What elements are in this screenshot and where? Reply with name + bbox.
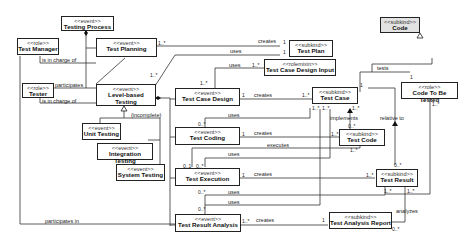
class-name: Testing Process (62, 24, 113, 31)
class-test-case-design-input[interactable]: <<rolemixin>> Test Case Design Input (264, 59, 336, 76)
multiplicity: 1..* (312, 105, 320, 111)
class-name: Code To Be Tested (402, 90, 457, 104)
multiplicity: 0..* (198, 189, 206, 195)
multiplicity: 0..* (198, 121, 206, 127)
multiplicity: 1..* (350, 147, 358, 153)
class-name: Test Manager (18, 46, 58, 53)
class-name: Integration Testing (98, 151, 152, 165)
class-test-analysis-report[interactable]: <<subkind>> Test Analysis Report (329, 212, 392, 229)
class-tester[interactable]: <<role>> Tester (22, 83, 54, 98)
class-test-case-design[interactable]: <<event>> Test Case Design (175, 88, 240, 106)
multiplicity: 1 (242, 92, 245, 98)
class-name: System Testing (117, 172, 164, 179)
class-name: Code (381, 25, 419, 32)
multiplicity: 1 (242, 131, 245, 137)
multiplicity: 0..* (394, 162, 402, 168)
class-name: Test Plan (290, 48, 332, 55)
multiplicity: 1..* (432, 101, 440, 107)
label-creates: creates (256, 217, 274, 223)
label-creates: creates (254, 130, 272, 136)
multiplicity: 1..* (200, 80, 208, 86)
label-creates: creates (254, 92, 272, 98)
class-test-result[interactable]: <<subkind>> Test Result (376, 169, 418, 187)
label-uses: uses (229, 62, 241, 68)
multiplicity: 1..* (158, 40, 166, 46)
class-code[interactable]: <<subkind>> Code (380, 17, 420, 33)
class-name: Test Result (377, 177, 417, 184)
label-uses: uses (230, 48, 242, 54)
label-is-in-charge-of: is in charge of (42, 98, 76, 104)
class-test-result-analysis[interactable]: <<event>> Test Result Analysis (175, 214, 241, 232)
multiplicity: 1..* (352, 105, 360, 111)
class-system-testing[interactable]: <<event>> System Testing (116, 164, 165, 181)
multiplicity: 1..* (407, 188, 415, 194)
label-incomplete: {incomplete} (131, 112, 161, 118)
label-executes: executes (267, 142, 289, 148)
label-participates-in: participates in (45, 218, 79, 224)
multiplicity: 1 (283, 39, 286, 45)
multiplicity: 1 (283, 49, 286, 55)
label-uses: uses (228, 199, 240, 205)
label-uses: uses (228, 112, 240, 118)
class-name: Test Result Analysis (176, 222, 240, 229)
class-test-case[interactable]: <<subkind>> Test Case (312, 87, 358, 104)
multiplicity: 1..* (302, 92, 310, 98)
multiplicity: 1 (322, 217, 325, 223)
label-creates: creates (258, 38, 276, 44)
label-analyzes: analyzes (396, 208, 418, 214)
class-integration-testing[interactable]: <<event>> Integration Testing (97, 143, 153, 160)
multiplicity: 1 (410, 74, 413, 80)
class-name: Test Code (340, 137, 384, 144)
class-name: Tester (23, 91, 53, 98)
class-level-based-testing[interactable]: <<event>> Level-based Testing (96, 84, 156, 106)
label-creates: creates (254, 171, 272, 177)
label-uses: uses (228, 189, 240, 195)
multiplicity: 0..* (198, 206, 206, 212)
class-test-code[interactable]: <<subkind>> Test Code (339, 129, 385, 146)
class-name: Test Coding (176, 135, 239, 142)
multiplicity: 1..* (242, 218, 250, 224)
class-name: Test Case Design (176, 96, 239, 103)
multiplicity: 0..* (392, 226, 400, 232)
class-test-coding[interactable]: <<event>> Test Coding (175, 127, 240, 145)
class-name: Test Planning (97, 46, 156, 53)
label-relative-to: relative to (380, 115, 404, 121)
label-is-in-charge-of: is in charge of (42, 57, 76, 63)
multiplicity: 1..* (366, 172, 374, 178)
class-code-to-be-tested[interactable]: <<role>> Code To Be Tested (401, 82, 458, 99)
multiplicity: 1..* (150, 72, 158, 78)
label-implements: implements (330, 115, 358, 121)
class-name: Test Case (313, 95, 357, 102)
label-tests: tests (377, 65, 389, 71)
class-test-planning[interactable]: <<event>> Test Planning (96, 38, 157, 57)
multiplicity: 1 (242, 172, 245, 178)
class-testing-process[interactable]: <<event>> Testing Process (61, 16, 114, 31)
class-unit-testing[interactable]: <<event>> Unit Testing (82, 123, 121, 140)
multiplicity: 0..* (348, 123, 356, 129)
multiplicity: 1..* (322, 105, 330, 111)
class-test-execution[interactable]: <<event>> Test Execution (175, 168, 240, 186)
class-name: Unit Testing (83, 131, 120, 138)
multiplicity: 1..* (252, 62, 260, 68)
class-name: Test Analysis Report (330, 220, 391, 227)
multiplicity: 1 (360, 82, 363, 88)
class-test-manager[interactable]: <<role>> Test Manager (17, 38, 59, 55)
class-name: Level-based Testing (97, 92, 155, 106)
multiplicity: 1..* (331, 131, 339, 137)
class-name: Test Case Design Input (265, 67, 335, 74)
multiplicity: 0..1 (183, 163, 191, 169)
label-uses: uses (228, 151, 240, 157)
multiplicity: 0..* (196, 163, 204, 169)
class-test-plan[interactable]: <<subkind>> Test Plan (289, 40, 333, 57)
label-participates: participates (55, 82, 83, 88)
multiplicity: 1..* (384, 188, 392, 194)
class-name: Test Execution (176, 176, 239, 183)
